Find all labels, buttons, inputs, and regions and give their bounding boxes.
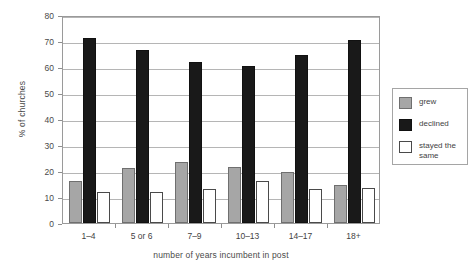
y-tick-label: 20 (28, 168, 54, 177)
y-tick-label: 70 (28, 38, 54, 47)
bar-group (228, 17, 269, 223)
y-tick-label: 10 (28, 194, 54, 203)
legend: grewdeclinedstayed the same (392, 88, 468, 165)
gridline (63, 69, 379, 70)
bar-declined (136, 50, 149, 223)
bar-declined (189, 62, 202, 223)
legend-item: stayed the same (399, 141, 456, 160)
gridline (63, 95, 379, 96)
x-tick-label: 10–13 (221, 231, 274, 241)
bar-same (203, 189, 216, 223)
bar-grew (122, 168, 135, 223)
bar-declined (295, 55, 308, 223)
bar-group (281, 17, 322, 223)
legend-label: grew (419, 97, 436, 107)
bar-group (69, 17, 110, 223)
bar-same (97, 192, 110, 223)
bar-declined (83, 38, 96, 223)
legend-label: declined (419, 119, 449, 129)
y-tick-mark (58, 224, 62, 225)
y-tick-label: 50 (28, 90, 54, 99)
y-tick-label: 60 (28, 64, 54, 73)
bar-group (334, 17, 375, 223)
gridline (63, 199, 379, 200)
gridline (63, 43, 379, 44)
x-tick-mark (274, 224, 275, 228)
bar-same (150, 192, 163, 223)
x-axis-title: number of years incumbent in post (62, 250, 380, 260)
legend-swatch-same (399, 141, 412, 153)
plot-area (62, 16, 380, 224)
bar-group (175, 17, 216, 223)
bar-same (362, 188, 375, 223)
y-tick-label: 30 (28, 142, 54, 151)
bar-grew (281, 172, 294, 223)
bar-grew (228, 167, 241, 223)
x-tick-label: 14–17 (274, 231, 327, 241)
legend-item: declined (399, 119, 449, 131)
x-tick-label: 7–9 (168, 231, 221, 241)
bar-grew (175, 162, 188, 223)
bar-same (309, 189, 322, 223)
legend-item: grew (399, 97, 436, 109)
bar-grew (334, 185, 347, 223)
bar-chart: % of churches 01020304050607080 1–45 or … (0, 0, 475, 277)
legend-swatch-declined (399, 119, 412, 131)
x-tick-mark (115, 224, 116, 228)
gridline (63, 17, 379, 18)
x-tick-mark (168, 224, 169, 228)
bar-group (122, 17, 163, 223)
x-tick-mark (221, 224, 222, 228)
legend-swatch-grew (399, 97, 412, 109)
x-tick-label: 1–4 (62, 231, 115, 241)
gridline (63, 147, 379, 148)
y-tick-label: 0 (28, 220, 54, 229)
y-tick-label: 40 (28, 116, 54, 125)
y-axis-title: % of churches (17, 49, 27, 169)
gridline (63, 121, 379, 122)
gridline (63, 173, 379, 174)
y-tick-label: 80 (28, 12, 54, 21)
x-tick-label: 5 or 6 (115, 231, 168, 241)
x-tick-mark (327, 224, 328, 228)
x-tick-label: 18+ (327, 231, 380, 241)
bar-grew (69, 181, 82, 223)
bar-same (256, 181, 269, 223)
bar-declined (242, 66, 255, 223)
legend-label: stayed the same (419, 141, 456, 160)
bar-declined (348, 40, 361, 223)
